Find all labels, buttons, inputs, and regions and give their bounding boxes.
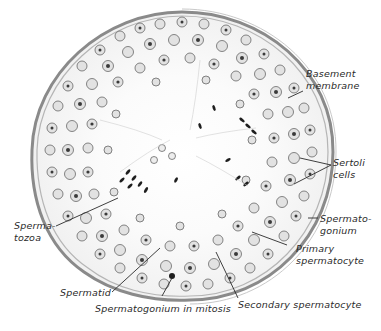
label-secondary-spermatocyte: Secondary spermatocyte xyxy=(238,299,362,311)
label-primary-spermatocyte: Primary spermatocyte xyxy=(296,243,364,267)
label-spermatogonium-in-mitosis: Spermatogonium in mitosis xyxy=(95,303,231,315)
label-basement-membrane: Basement membrane xyxy=(306,68,360,92)
label-sertoli-cells: Sertoli cells xyxy=(333,157,365,181)
label-spermatozoa: Sperma- tozoa xyxy=(14,220,56,244)
seminiferous-tubule-diagram xyxy=(0,0,381,331)
label-spermatid: Spermatid xyxy=(60,287,111,299)
label-spermatogonium: Spermato- gonium xyxy=(320,213,372,237)
